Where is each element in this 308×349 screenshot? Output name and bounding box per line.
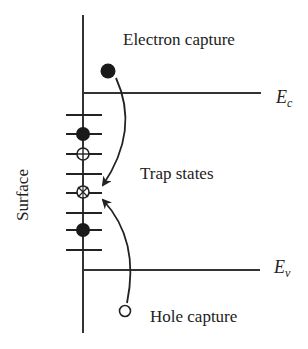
electron-capture-label: Electron capture bbox=[123, 30, 235, 50]
hole-capture-label: Hole capture bbox=[150, 307, 237, 327]
hole-capture-arrow bbox=[103, 200, 130, 303]
free-hole-icon bbox=[120, 306, 131, 317]
free-electron-icon bbox=[101, 64, 116, 79]
recombination-site-icon bbox=[77, 186, 89, 198]
trapped-electron-icon bbox=[76, 127, 90, 141]
trap-states-label: Trap states bbox=[140, 164, 214, 184]
surface-label: Surface bbox=[13, 165, 33, 225]
valence-band-label: Ev bbox=[274, 257, 290, 281]
conduction-band-label: Ec bbox=[276, 87, 292, 111]
electron-capture-arrow bbox=[103, 78, 125, 185]
trapped-electron-icon bbox=[76, 223, 90, 237]
